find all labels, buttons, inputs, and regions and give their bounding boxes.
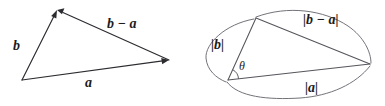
vector-a xyxy=(22,58,169,80)
label-magnitude-b-minus-a: |b − a| xyxy=(303,13,339,27)
angle-theta-arc xyxy=(233,70,239,79)
vector-figure: b b − a a |b| |b − a| |a| θ xyxy=(0,0,385,106)
vector-b-arrowhead xyxy=(51,10,57,19)
label-magnitude-b: |b| xyxy=(211,38,224,52)
label-vector-b-minus-a: b − a xyxy=(107,17,136,31)
vector-a-shaft xyxy=(22,61,163,80)
label-magnitude-a: |a| xyxy=(305,81,318,95)
label-vector-b: b xyxy=(13,39,20,53)
arc-magnitude-a xyxy=(227,66,370,99)
vector-b xyxy=(22,10,57,80)
side-a xyxy=(228,64,370,80)
right-magnitude-triangle xyxy=(206,10,371,98)
label-vector-a: a xyxy=(85,76,92,90)
vector-b-shaft xyxy=(22,15,54,80)
left-vector-triangle xyxy=(22,8,169,80)
label-angle-theta: θ xyxy=(239,60,245,72)
